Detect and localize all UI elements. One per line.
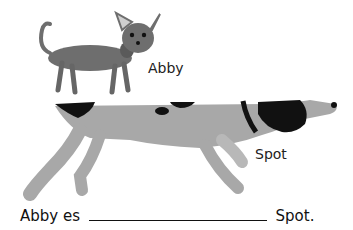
sentence-end: Spot. xyxy=(276,207,315,225)
answer-blank[interactable] xyxy=(89,206,267,221)
pointer-dog-illustration xyxy=(0,90,353,202)
sentence-start: Abby es xyxy=(20,207,80,225)
dog-label-spot: Spot xyxy=(255,146,287,162)
dog-label-abby: Abby xyxy=(148,60,184,76)
chihuahua-illustration xyxy=(20,8,170,98)
fill-in-sentence: Abby es Spot. xyxy=(20,206,314,225)
